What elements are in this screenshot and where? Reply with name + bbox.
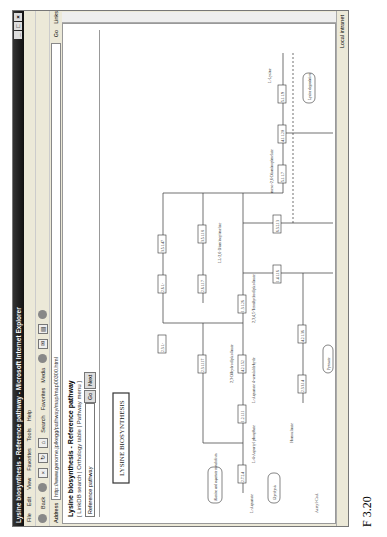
- svg-text:3.5.1.18: 3.5.1.18: [201, 230, 205, 242]
- back-button[interactable]: Back: [40, 497, 46, 509]
- page-content: Lysine biosynthesis - Reference pathway …: [62, 23, 336, 524]
- rotated-screenshot: Lysine biosynthesis - Reference pathway …: [0, 0, 387, 537]
- menu-edit[interactable]: Edit: [24, 497, 34, 506]
- svg-text:2.6.1.17: 2.6.1.17: [201, 280, 205, 292]
- menu-favorites[interactable]: Favorites: [24, 448, 34, 471]
- svg-text:2.3.1.-: 2.3.1.-: [161, 342, 165, 352]
- svg-text:Homocitrate: Homocitrate: [289, 423, 294, 443]
- svg-text:5.1.1.7: 5.1.1.7: [281, 172, 285, 182]
- address-label: Address: [53, 503, 59, 523]
- favorites-button[interactable]: Favorites: [40, 388, 46, 411]
- svg-text:4.2.1.36: 4.2.1.36: [301, 330, 305, 342]
- svg-text:3.5.1.47: 3.5.1.47: [161, 240, 165, 252]
- mail-icon[interactable]: ✉: [38, 339, 48, 349]
- title-bar: Lysine biosynthesis - Reference pathway …: [13, 11, 24, 526]
- menu-help[interactable]: Help: [24, 410, 34, 421]
- links-button[interactable]: Links: [53, 11, 59, 24]
- address-bar: Address http://www.genome.jp/kegg/pathwa…: [49, 11, 61, 526]
- svg-text:2.7.2.4: 2.7.2.4: [241, 472, 245, 482]
- next-button[interactable]: Next: [84, 372, 96, 389]
- svg-text:2.6.1.-: 2.6.1.-: [161, 282, 165, 292]
- browser-window: Lysine biosynthesis - Reference pathway …: [12, 10, 349, 527]
- svg-text:Lysine degradation: Lysine degradation: [308, 73, 312, 100]
- svg-text:2.3.1.117: 2.3.1.117: [201, 358, 205, 372]
- svg-text:2.3.3.14: 2.3.3.14: [301, 380, 305, 392]
- status-bar: Local intranet: [336, 11, 348, 526]
- window-title: Lysine biosynthesis - Reference pathway …: [15, 307, 22, 523]
- svg-text:LL-2,6-Diaminopimelate: LL-2,6-Diaminopimelate: [217, 222, 223, 263]
- svg-text:4.2.1.52: 4.2.1.52: [241, 360, 245, 372]
- media-button[interactable]: Media: [40, 368, 46, 383]
- home-icon[interactable]: ⌂: [38, 438, 48, 448]
- svg-text:meso-2,6-Diaminopimelate: meso-2,6-Diaminopimelate: [269, 149, 275, 193]
- go-button[interactable]: Go: [53, 27, 59, 40]
- toolbar: Back × ↻ ⌂ Search Favorites Media ✉ ▤: [35, 11, 49, 526]
- vertical-scrollbar[interactable]: [62, 12, 336, 23]
- menu-tools[interactable]: Tools: [24, 428, 34, 441]
- stop-icon[interactable]: ×: [38, 468, 48, 478]
- svg-text:6.3.2.13: 6.3.2.13: [276, 220, 280, 232]
- page-links[interactable]: [ LinkDB search | Orthology table | Path…: [76, 381, 82, 517]
- address-input[interactable]: http://www.genome.jp/kegg/pathway/map/ma…: [51, 43, 61, 500]
- menu-view[interactable]: View: [24, 478, 34, 490]
- close-button[interactable]: ×: [14, 13, 22, 21]
- messenger-icon[interactable]: [38, 310, 47, 319]
- pathway-map[interactable]: LYSINE BIOSYNTHESIS 2.7.2.4 1.2.1.11: [103, 23, 336, 523]
- svg-text:Glycolysis: Glycolysis: [273, 484, 277, 500]
- svg-text:4.1.1.20: 4.1.1.20: [281, 130, 285, 142]
- print-icon[interactable]: ▤: [38, 324, 48, 334]
- svg-text:2,3-Dihydrodipicolinate: 2,3-Dihydrodipicolinate: [229, 344, 235, 383]
- security-zone: Local intranet: [337, 15, 348, 48]
- svg-text:L-4-Aspartyl phosphate: L-4-Aspartyl phosphate: [251, 425, 256, 463]
- svg-text:Alanine and aspartate metaboli: Alanine and aspartate metabolism: [214, 453, 218, 501]
- svg-text:Pyruvate: Pyruvate: [327, 357, 331, 370]
- page-title: Lysine biosynthesis - Reference pathway: [67, 380, 74, 517]
- search-button[interactable]: Search: [40, 415, 46, 432]
- page-go-button[interactable]: Go: [84, 390, 96, 403]
- svg-text:L-Aspartate 4-semialdehyde: L-Aspartate 4-semialdehyde: [251, 357, 256, 403]
- svg-text:L-Lysine: L-Lysine: [267, 68, 272, 83]
- svg-text:1.3.1.26: 1.3.1.26: [241, 300, 245, 312]
- figure-caption: F 3.20: [360, 496, 375, 527]
- svg-text:1.2.1.11: 1.2.1.11: [241, 410, 245, 422]
- svg-text:Acetyl-CoA: Acetyl-CoA: [314, 493, 319, 513]
- organism-select[interactable]: Reference pathway: [85, 403, 95, 517]
- svg-text:5.1.1.9: 5.1.1.9: [281, 92, 285, 102]
- refresh-icon[interactable]: ↻: [38, 453, 48, 463]
- svg-text:2,3,4,5-Tetrahydrodipicolinate: 2,3,4,5-Tetrahydrodipicolinate: [251, 274, 257, 323]
- svg-text:1.4.1.16: 1.4.1.16: [276, 270, 280, 282]
- back-arrow-icon[interactable]: [38, 514, 47, 523]
- history-icon[interactable]: [38, 354, 47, 363]
- divider: [99, 30, 100, 517]
- maximize-button[interactable]: □: [14, 22, 22, 30]
- menu-file[interactable]: File: [24, 513, 34, 522]
- minimize-button[interactable]: _: [14, 31, 22, 39]
- forward-arrow-icon[interactable]: [38, 483, 47, 492]
- svg-text:L-Aspartate: L-Aspartate: [249, 494, 254, 513]
- menu-bar: File Edit View Favorites Tools Help: [24, 11, 34, 526]
- map-title: LYSINE BIOSYNTHESIS: [118, 400, 126, 476]
